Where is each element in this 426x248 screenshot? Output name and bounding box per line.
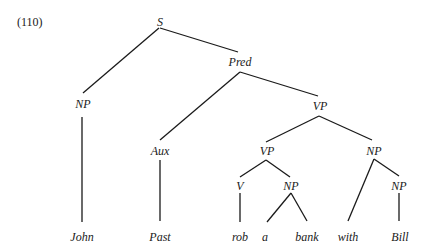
edge-np3-w_bank bbox=[291, 193, 307, 221]
node-label-np4: NP bbox=[390, 179, 407, 193]
leaf-word-john: John bbox=[70, 230, 93, 244]
edge-vp2-v bbox=[240, 160, 266, 177]
syntax-tree-diagram: (110) SNPPredAuxVPVPNPVNPNPJohnPastrobab… bbox=[0, 0, 426, 248]
edge-vp2-np3 bbox=[266, 160, 290, 177]
node-label-v: V bbox=[236, 179, 245, 193]
edge-np2-np4 bbox=[374, 159, 399, 176]
example-number: (110) bbox=[17, 15, 43, 29]
node-label-aux: Aux bbox=[150, 144, 170, 158]
node-label-pred: Pred bbox=[228, 55, 253, 69]
edge-np3-w_a bbox=[267, 193, 291, 222]
node-label-s: S bbox=[157, 15, 163, 29]
node-label-vp1: VP bbox=[313, 99, 328, 113]
edge-vp1-np2 bbox=[319, 116, 372, 140]
edge-vp1-vp2 bbox=[266, 116, 319, 142]
leaf-word-with: with bbox=[338, 230, 359, 244]
leaf-word-a: a bbox=[262, 230, 268, 244]
leaf-word-bank: bank bbox=[295, 230, 319, 244]
edge-s-np1 bbox=[83, 28, 159, 93]
node-label-np3: NP bbox=[282, 179, 299, 193]
node-label-np2: NP bbox=[365, 144, 382, 158]
edge-pred-vp1 bbox=[240, 72, 318, 96]
edge-s-pred bbox=[160, 28, 238, 52]
leaf-word-past: Past bbox=[148, 230, 171, 244]
edge-np2-w_with bbox=[348, 159, 374, 221]
edge-pred-aux bbox=[160, 72, 240, 140]
node-label-np1: NP bbox=[74, 97, 91, 111]
node-label-vp2: VP bbox=[260, 144, 275, 158]
leaf-word-bill: Bill bbox=[391, 230, 409, 244]
leaf-word-rob: rob bbox=[232, 230, 248, 244]
